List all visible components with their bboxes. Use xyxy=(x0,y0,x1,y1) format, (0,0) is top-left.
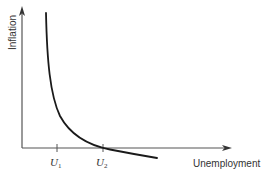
phillips-curve xyxy=(46,13,157,158)
x-axis-label: Unemployment xyxy=(193,158,260,169)
phillips-curve-diagram: Inflation Unemployment U1 U2 xyxy=(0,0,262,177)
y-axis-label: Inflation xyxy=(7,15,18,50)
tick-label-u1: U1 xyxy=(50,156,62,170)
tick-label-u2: U2 xyxy=(96,156,108,170)
